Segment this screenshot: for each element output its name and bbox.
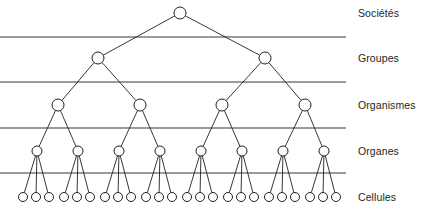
tree-edge-organes-to-cellules [147,156,158,193]
tree-edge-organes-to-cellules [36,156,37,193]
level-label-cellules: Cellules [358,192,396,203]
tree-edge-organes-to-cellules [77,156,78,193]
tree-edge-organes-to-cellules [118,156,119,193]
tree-edge-organes-to-cellules [270,156,281,193]
node-organes-1 [32,146,42,156]
node-organes-5 [196,146,206,156]
tree-edge-organes-to-cellules [200,156,201,193]
tree-edge-organes-to-cellules [241,156,242,193]
tree-edge-organes-to-cellules [202,156,212,193]
tree-edge-groupes-to-organismes [102,62,136,100]
node-cellules-11 [155,193,164,202]
node-cellules-15 [209,193,218,202]
tree-edge-organes-to-cellules [79,156,89,193]
tree-edge-organes-to-cellules [24,156,35,193]
tree-edge-organismes-to-organes [307,111,322,147]
node-cellules-5 [73,193,82,202]
level-label-organismes: Organismes [358,100,416,111]
level-label-societes: Sociétés [358,8,399,19]
tree-edge-groupes-to-organismes [226,62,261,100]
node-groupes-1 [92,52,104,64]
node-cellules-9 [127,193,136,202]
node-cellules-8 [114,193,123,202]
tree-edge-societes-to-groupes [103,16,174,55]
tree-edge-societes-to-groupes [185,16,259,55]
node-societes-1 [174,7,186,19]
node-organes-2 [73,146,83,156]
tree-edge-organes-to-cellules [282,156,283,193]
node-cellules-3 [45,193,54,202]
tree-edge-organes-to-cellules [159,156,160,193]
tree-edge-organes-to-cellules [284,156,294,193]
node-cellules-18 [250,193,259,202]
tree-edge-organismes-to-organes [142,111,158,147]
node-cellules-7 [101,193,110,202]
tree-edge-organes-to-cellules [311,156,322,193]
tree-edge-organes-to-cellules [325,156,335,193]
tree-edge-organes-to-cellules [120,156,130,193]
tree-edge-organismes-to-organes [121,110,137,146]
tree-edge-organes-to-cellules [323,156,324,193]
tree-node-group [19,7,341,202]
tree-edge-organismes-to-organes [224,111,240,147]
node-cellules-14 [196,193,205,202]
tree-edge-organes-to-cellules [243,156,253,193]
tree-edge-group [24,16,335,193]
node-cellules-2 [32,193,41,202]
tree-edge-organes-to-cellules [188,156,199,193]
tree-edge-organismes-to-organes [203,110,219,146]
tree-edge-organes-to-cellules [106,156,117,193]
figure-canvas: Sociétés Groupes Organismes Organes Cell… [0,0,436,211]
node-cellules-10 [142,193,151,202]
level-label-organes: Organes [358,146,399,157]
node-organes-6 [237,146,247,156]
node-organes-4 [155,146,165,156]
node-cellules-20 [278,193,287,202]
node-organismes-4 [299,99,311,111]
node-organismes-2 [134,99,146,111]
node-cellules-6 [86,193,95,202]
level-label-groupes: Groupes [358,53,399,64]
tree-edge-groupes-to-organismes [62,63,94,101]
tree-edge-organes-to-cellules [161,156,171,193]
node-organismes-1 [52,99,64,111]
tree-edge-organes-to-cellules [38,156,48,193]
tree-edge-groupes-to-organismes [269,63,301,101]
tree-edge-organismes-to-organes [285,110,302,146]
node-organes-8 [319,146,329,156]
node-cellules-1 [19,193,28,202]
node-cellules-24 [332,193,341,202]
node-cellules-17 [237,193,246,202]
node-cellules-21 [291,193,300,202]
tree-edge-organes-to-cellules [229,156,240,193]
node-groupes-2 [259,52,271,64]
node-cellules-19 [265,193,274,202]
node-organes-3 [114,146,124,156]
node-cellules-16 [224,193,233,202]
tree-edge-organismes-to-organes [60,111,76,147]
tree-edge-organes-to-cellules [65,156,76,193]
node-cellules-4 [60,193,69,202]
node-cellules-23 [319,193,328,202]
tree-edge-organismes-to-organes [39,110,55,146]
node-cellules-12 [168,193,177,202]
node-cellules-13 [183,193,192,202]
node-cellules-22 [306,193,315,202]
node-organes-7 [278,146,288,156]
node-organismes-3 [216,99,228,111]
